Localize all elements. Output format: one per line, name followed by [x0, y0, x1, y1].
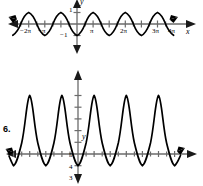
problem-number-bottom: 6.: [3, 124, 11, 134]
x-tick-label-4pi-top: 4π: [168, 28, 175, 35]
figure-bottom-plot: [0, 60, 203, 186]
figure-bottom-cosine-graph: 6. x y −2π −π π 2π 3π 4π 5 4 3 2 1 −1: [0, 60, 203, 186]
y-axis-bottom: [74, 70, 82, 184]
cosine-curve-bottom: [9, 96, 181, 166]
figure-top-cosine-graph: 5. x y −2π −π π 2π 3π 4π 1 −1: [0, 0, 203, 60]
x-axis-label-top: x: [186, 28, 190, 36]
y-axis-label-bottom: y: [82, 133, 86, 141]
worksheet-page: 5. x y −2π −π π 2π 3π 4π 1 −1: [0, 0, 203, 186]
x-tick-label-neg2pi-top: −2π: [20, 28, 31, 35]
x-tick-label-negpi-top: −π: [38, 28, 45, 35]
y-tick-label-5-bottom: 5: [69, 152, 73, 159]
y-tick-label-3-bottom: 3: [69, 175, 73, 182]
x-ticks-bottom: [14, 151, 175, 157]
y-tick-label-1-top: 1: [69, 7, 73, 14]
y-tick-label-4-bottom: 4: [69, 164, 73, 171]
x-tick-label-3pi-top: 3π: [152, 28, 159, 35]
y-axis-label-top: y: [80, 0, 84, 6]
y-axis-top: [73, 0, 81, 54]
y-tick-label-neg1-top: −1: [60, 32, 67, 39]
x-tick-label-pi-top: π: [90, 28, 94, 35]
x-tick-label-2pi-top: 2π: [120, 28, 127, 35]
